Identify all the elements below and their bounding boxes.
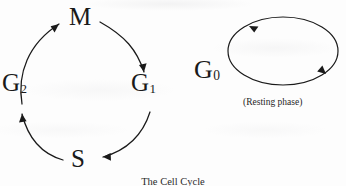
arrow-g1-to-s	[103, 112, 150, 161]
phase-label-g0: G0	[194, 57, 220, 83]
phase-label-g1: G1	[131, 70, 156, 95]
figure-caption: The Cell Cycle	[0, 176, 346, 186]
phase-letter-m: M	[69, 3, 91, 30]
resting-phase-caption: (Resting phase)	[243, 97, 302, 107]
diagram-canvas	[0, 0, 346, 186]
phase-letter-g0: G	[194, 55, 213, 84]
arrow-s-to-g2	[19, 114, 63, 160]
phase-letter-s: S	[71, 145, 85, 172]
phase-subscript-g0: 0	[213, 68, 220, 83]
phase-subscript-g1: 1	[150, 81, 157, 96]
phase-label-m: M	[69, 4, 91, 29]
phase-label-g2: G2	[2, 70, 27, 95]
arrow-m-to-g1	[100, 22, 147, 72]
resting-phase-loop	[228, 17, 338, 85]
phase-subscript-g2: 2	[21, 81, 28, 96]
cell-cycle-figure: M G1 G2 S G0 (Resting phase) The Cell Cy…	[0, 0, 346, 186]
phase-letter-g2: G	[2, 69, 20, 96]
phase-label-s: S	[71, 146, 85, 171]
phase-letter-g1: G	[131, 69, 149, 96]
